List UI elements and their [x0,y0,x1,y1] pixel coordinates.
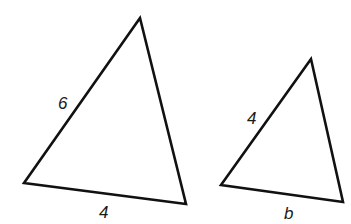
small-triangle-bottom-side-label: b [284,204,293,223]
small-triangle [221,59,343,202]
similar-triangles-diagram: 6 4 4 b [0,0,351,224]
small-triangle-left-side-label: 4 [247,109,256,128]
large-triangle [24,18,186,204]
large-triangle-left-side-label: 6 [58,94,68,113]
large-triangle-bottom-side-label: 4 [99,203,108,222]
